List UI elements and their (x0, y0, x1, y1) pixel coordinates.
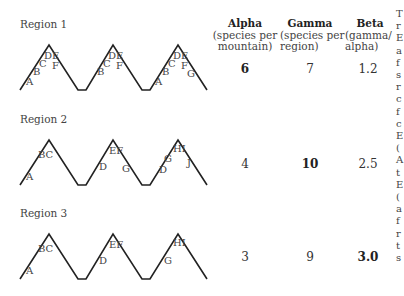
region-2-mountain-3-species-D: D (159, 164, 167, 175)
column-header-alpha: Alpha (species per mountain) (210, 18, 280, 53)
mountain-ranges: ABCDEFBCDEFABCDEFGABCDEFGDGHIJABCDEFGHI (20, 45, 207, 279)
column-title-gamma: Gamma (275, 18, 345, 30)
region-3-mountain-1-species-A: A (25, 265, 34, 276)
region-1-alpha: 6 (220, 62, 270, 76)
region-1-mountain-2-species-F: F (116, 60, 123, 71)
column-header-beta: Beta (gamma/ alpha) (340, 18, 395, 53)
region-2-mountain-1-species-A: A (25, 171, 34, 182)
region-1-gamma: 7 (285, 62, 335, 76)
region-2-mountain-2-species-D: D (99, 161, 107, 172)
region-3-beta: 3.0 (343, 250, 393, 264)
cut-off-side-text: T r E a f s r c f c E ( A t E ( a f r t … (396, 8, 404, 264)
region-1-beta: 1.2 (343, 62, 393, 76)
region-2-mountain-2-species-EF: EF (109, 145, 123, 156)
region-3-mountain-2-species-D: D (99, 255, 107, 266)
region-2-mountain-3-species-J: J (186, 157, 191, 168)
column-header-gamma: Gamma (species per region) (275, 18, 345, 53)
region-2-alpha: 4 (220, 157, 270, 171)
region-3-gamma: 9 (285, 250, 335, 264)
region-3-mountain-1-species-BC: BC (38, 243, 54, 254)
column-subtitle-alpha-2: mountain) (210, 41, 280, 53)
region-3-mountain-3-species-HI: HI (173, 237, 186, 248)
region-3-mountain-2-species-EF: EF (109, 239, 123, 250)
region-2-mountain-3-species-HI: HI (173, 143, 186, 154)
region-1-mountain-1-species-A: A (25, 76, 34, 87)
region-1-mountain-3-species-A: A (154, 76, 163, 87)
region-2-mountain-1-species-BC: BC (38, 149, 54, 160)
region-3-alpha: 3 (220, 250, 270, 264)
region-2-mountain-3-species-G: G (164, 153, 172, 164)
column-title-alpha: Alpha (210, 18, 280, 30)
region-2-gamma: 10 (285, 157, 335, 171)
region-2-mountain-2-species-G: G (122, 163, 130, 174)
column-subtitle-gamma-2: region) (275, 41, 345, 53)
region-1-mountain-1-species-F: F (52, 60, 59, 71)
region-3-mountain-3-species-G: G (164, 255, 172, 266)
region-1-mountain-3-species-G: G (187, 68, 195, 79)
column-subtitle-beta-2: alpha) (345, 41, 395, 53)
column-title-beta: Beta (345, 18, 395, 30)
region-2-beta: 2.5 (343, 157, 393, 171)
